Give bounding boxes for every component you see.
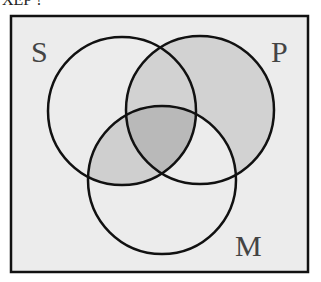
label-m: M — [235, 229, 262, 262]
label-p: P — [271, 35, 288, 68]
label-s: S — [31, 35, 48, 68]
venn-diagram: S P M — [0, 0, 321, 282]
